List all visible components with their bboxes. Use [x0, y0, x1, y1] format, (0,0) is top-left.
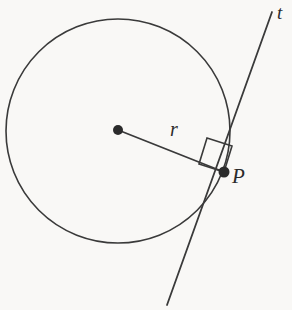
geometry-figure: r P t: [0, 0, 292, 310]
point-p-label: P: [232, 166, 245, 187]
center-point-dot: [113, 125, 123, 135]
radius-label: r: [170, 119, 178, 139]
tangent-line: [167, 12, 272, 305]
tangent-line-label: t: [277, 3, 282, 22]
tangent-point-dot: [219, 167, 230, 178]
geometry-canvas: [0, 0, 292, 310]
